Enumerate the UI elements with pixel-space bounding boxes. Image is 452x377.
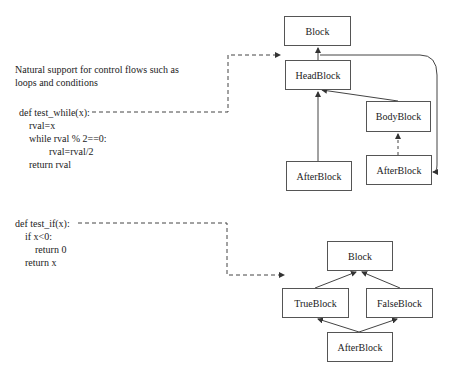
- code-line: rval=x: [19, 119, 55, 132]
- description-line-2: loops and conditions: [15, 76, 98, 89]
- after-block-left-node: AfterBlock: [286, 161, 352, 191]
- node-label: Block: [348, 251, 372, 262]
- code-line: return x: [15, 256, 56, 269]
- node-label: AfterBlock: [297, 171, 342, 182]
- code-line: if x<0:: [15, 230, 52, 243]
- if-after-block-node: AfterBlock: [327, 332, 393, 362]
- node-label: Block: [306, 26, 330, 37]
- code-line: def test_if(x):: [15, 217, 70, 230]
- description-line-1: Natural support for control flows such a…: [15, 63, 179, 76]
- body-to-head-arrow: [322, 90, 398, 101]
- after-block-right-node: AfterBlock: [366, 155, 432, 185]
- if-block-node: Block: [327, 241, 393, 271]
- node-label: TrueBlock: [294, 298, 336, 309]
- code-line: def test_while(x):: [19, 106, 90, 119]
- node-label: AfterBlock: [377, 165, 422, 176]
- true-block-node: TrueBlock: [282, 288, 349, 318]
- head-block-node: HeadBlock: [285, 60, 351, 90]
- node-label: BodyBlock: [376, 111, 422, 122]
- connectors: [0, 0, 452, 377]
- code-line: rval=rval/2: [19, 145, 94, 158]
- true-to-block-arrow: [315, 272, 356, 288]
- after-to-false-arrow: [359, 319, 397, 332]
- false-to-block-arrow: [362, 272, 400, 288]
- code-line: return 0: [15, 243, 66, 256]
- node-label: FalseBlock: [377, 298, 422, 309]
- body-block-node: BodyBlock: [366, 101, 431, 132]
- node-label: AfterBlock: [338, 342, 383, 353]
- if-dashed-link: [78, 223, 284, 275]
- code-line: while rval % 2==0:: [19, 132, 107, 145]
- node-label: HeadBlock: [296, 70, 341, 81]
- after-to-true-arrow: [318, 319, 359, 332]
- false-block-node: FalseBlock: [366, 288, 433, 318]
- while-block-node: Block: [284, 16, 351, 46]
- code-line: return rval: [19, 158, 71, 171]
